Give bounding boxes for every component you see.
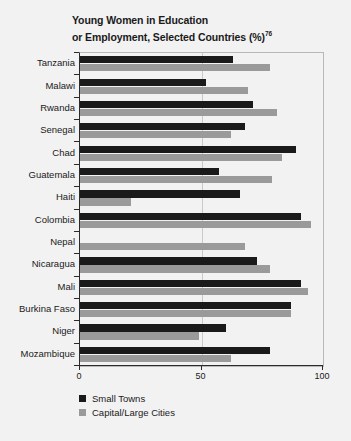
- bar-group: [80, 232, 323, 254]
- y-axis-label-guatemala: Guatemala: [1, 169, 75, 180]
- x-tick-100: [322, 365, 323, 370]
- legend-item-capital-large-cities[interactable]: Capital/Large Cities: [79, 406, 175, 418]
- x-tick-0: [79, 365, 80, 370]
- y-axis-label-senegal: Senegal: [1, 124, 75, 135]
- bar-malawi-capital-large-cities: [80, 87, 248, 94]
- bar-malawi-small-towns: [80, 79, 206, 86]
- y-axis-label-mozambique: Mozambique: [1, 348, 75, 359]
- bar-nicaragua-capital-large-cities: [80, 265, 270, 272]
- y-axis-label-chad: Chad: [1, 147, 75, 158]
- bar-colombia-small-towns: [80, 213, 301, 220]
- x-axis-label-100: 100: [314, 371, 329, 381]
- y-axis-labels: TanzaniaMalawiRwandaSenegalChadGuatemala…: [0, 52, 75, 365]
- chart-title-line2: or Employment, Selected Countries (%): [72, 31, 265, 43]
- bar-mali-small-towns: [80, 280, 301, 287]
- plot-area: [79, 52, 324, 367]
- bar-haiti-capital-large-cities: [80, 198, 131, 205]
- bar-group: [80, 53, 323, 75]
- bar-haiti-small-towns: [80, 190, 240, 197]
- bar-niger-small-towns: [80, 324, 226, 331]
- chart-title-line1: Young Women in Education: [72, 14, 208, 26]
- bar-guatemala-small-towns: [80, 168, 219, 175]
- legend-label: Capital/Large Cities: [92, 407, 175, 418]
- bar-mozambique-small-towns: [80, 347, 270, 354]
- y-axis-label-haiti: Haiti: [1, 191, 75, 202]
- bar-mali-capital-large-cities: [80, 288, 308, 295]
- bar-senegal-small-towns: [80, 123, 245, 130]
- bar-group: [80, 277, 323, 299]
- y-axis-label-colombia: Colombia: [1, 214, 75, 225]
- bar-tanzania-capital-large-cities: [80, 64, 270, 71]
- bar-group: [80, 344, 323, 366]
- bar-group: [80, 299, 323, 321]
- bar-nepal-capital-large-cities: [80, 243, 245, 250]
- bar-group: [80, 142, 323, 164]
- bar-group: [80, 254, 323, 276]
- chart-legend: Small TownsCapital/Large Cities: [79, 392, 175, 420]
- bar-nicaragua-small-towns: [80, 257, 257, 264]
- bar-burkina-faso-small-towns: [80, 302, 291, 309]
- x-tick-50: [201, 365, 202, 370]
- y-axis-label-niger: Niger: [1, 325, 75, 336]
- bar-niger-capital-large-cities: [80, 332, 199, 339]
- bar-colombia-capital-large-cities: [80, 221, 311, 228]
- bar-group: [80, 187, 323, 209]
- bar-mozambique-capital-large-cities: [80, 355, 231, 362]
- legend-item-small-towns[interactable]: Small Towns: [79, 392, 175, 404]
- y-axis-label-burkina-faso: Burkina Faso: [1, 303, 75, 314]
- bar-tanzania-small-towns: [80, 56, 233, 63]
- bar-chad-capital-large-cities: [80, 154, 282, 161]
- legend-swatch-icon: [79, 395, 86, 402]
- bar-rwanda-small-towns: [80, 101, 253, 108]
- y-axis-label-mali: Mali: [1, 281, 75, 292]
- x-axis-label-0: 0: [76, 371, 81, 381]
- x-axis-label-50: 50: [195, 371, 205, 381]
- legend-label: Small Towns: [92, 393, 145, 404]
- bar-burkina-faso-capital-large-cities: [80, 310, 291, 317]
- chart-title-footnote-superscript: 76: [265, 30, 272, 37]
- bar-group: [80, 120, 323, 142]
- chart-title: Young Women in Education or Employment, …: [72, 14, 342, 44]
- bar-group: [80, 210, 323, 232]
- y-axis-label-malawi: Malawi: [1, 80, 75, 91]
- legend-swatch-icon: [79, 409, 86, 416]
- bar-guatemala-capital-large-cities: [80, 176, 272, 183]
- bar-senegal-capital-large-cities: [80, 131, 231, 138]
- bar-group: [80, 75, 323, 97]
- bar-group: [80, 165, 323, 187]
- bar-group: [80, 98, 323, 120]
- y-axis-label-nepal: Nepal: [1, 236, 75, 247]
- bar-group: [80, 321, 323, 343]
- bar-chad-small-towns: [80, 146, 296, 153]
- bar-rwanda-capital-large-cities: [80, 109, 277, 116]
- y-axis-label-rwanda: Rwanda: [1, 102, 75, 113]
- y-axis-label-nicaragua: Nicaragua: [1, 258, 75, 269]
- y-axis-label-tanzania: Tanzania: [1, 57, 75, 68]
- chart-figure: Young Women in Education or Employment, …: [0, 0, 351, 441]
